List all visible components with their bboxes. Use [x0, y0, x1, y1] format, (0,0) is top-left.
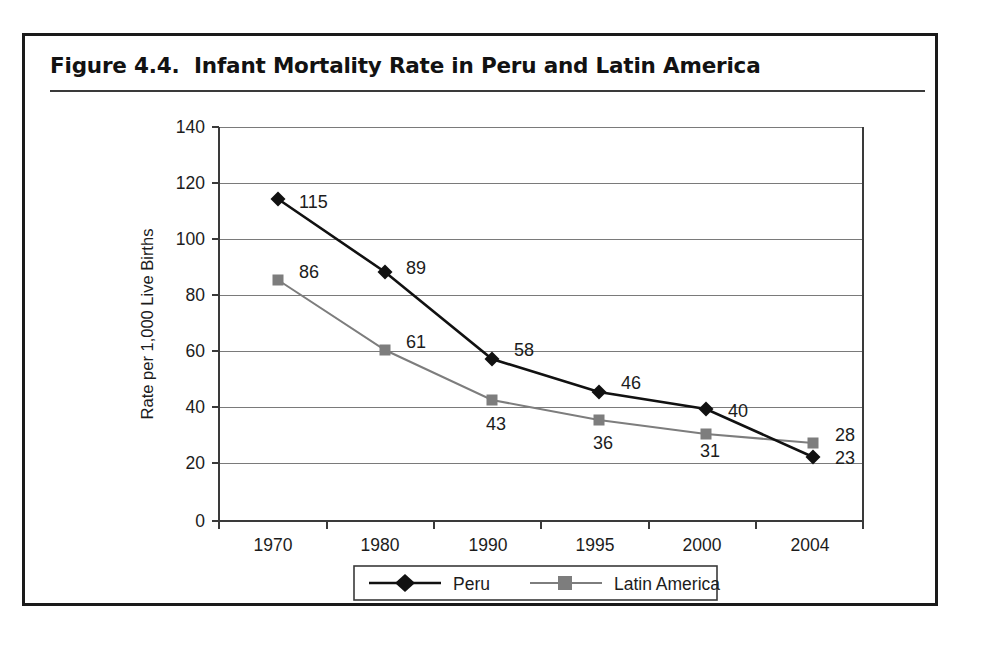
- x-tick-label-2000: 2000: [683, 535, 722, 555]
- datalabel-peru-2000: 40: [728, 401, 748, 421]
- x-tick-marks: [219, 521, 863, 529]
- line-chart-svg: 140 120 100 80 60 40 20 0 1970 1980 1990…: [25, 36, 941, 609]
- y-tick-label-80: 80: [186, 285, 206, 305]
- datalabel-latin-america-2004: 28: [835, 425, 855, 445]
- x-tick-label-1980: 1980: [361, 535, 400, 555]
- axes-group: [219, 127, 863, 521]
- marker-latin-america-1995: [594, 415, 605, 426]
- datalabel-peru-1990: 58: [514, 340, 534, 360]
- datalabel-latin-america-1980: 61: [406, 332, 426, 352]
- y-tick-label-120: 120: [176, 173, 205, 193]
- datalabel-latin-america-1970: 86: [299, 262, 319, 282]
- x-tick-label-1990: 1990: [469, 535, 508, 555]
- datalabel-latin-america-2000: 31: [700, 441, 720, 461]
- datalabel-latin-america-1995: 36: [593, 433, 613, 453]
- datalabel-peru-1980: 89: [406, 258, 426, 278]
- datalabel-peru-1995: 46: [621, 373, 641, 393]
- legend-label-peru: Peru: [453, 574, 490, 594]
- y-axis-title: Rate per 1,000 Live Births: [138, 229, 156, 420]
- figure-frame: Figure 4.4. Infant Mortality Rate in Per…: [22, 33, 938, 606]
- y-tick-marks: [212, 127, 219, 521]
- y-tick-label-100: 100: [176, 229, 205, 249]
- x-tick-label-2004: 2004: [791, 535, 830, 555]
- y-tick-label-0: 0: [195, 511, 205, 531]
- y-tick-label-140: 140: [176, 117, 205, 137]
- y-tick-label-60: 60: [186, 341, 206, 361]
- chart-plot-area: 140 120 100 80 60 40 20 0 1970 1980 1990…: [25, 36, 941, 609]
- x-tick-label-1970: 1970: [254, 535, 293, 555]
- x-tick-label-1995: 1995: [576, 535, 615, 555]
- page-edge-artifact: [836, 636, 986, 645]
- marker-peru-1970: [271, 192, 286, 207]
- marker-latin-america-2000: [701, 429, 712, 440]
- marker-peru-2000: [699, 402, 714, 417]
- gridlines-group: [219, 127, 863, 463]
- y-tick-label-20: 20: [186, 453, 206, 473]
- datalabel-peru-1970: 115: [299, 192, 328, 212]
- marker-latin-america-2004: [808, 438, 819, 449]
- marker-latin-america-1990: [487, 395, 498, 406]
- chart-legend[interactable]: Peru Latin America: [354, 566, 720, 600]
- datalabel-peru-2004: 23: [835, 448, 855, 468]
- marker-latin-america-1980: [380, 345, 391, 356]
- legend-label-latin-america: Latin America: [614, 574, 720, 594]
- marker-latin-america-1970: [273, 275, 284, 286]
- datalabel-latin-america-1990: 43: [486, 414, 506, 434]
- y-tick-label-40: 40: [186, 397, 206, 417]
- marker-peru-2004: [806, 450, 821, 465]
- marker-peru-1995: [592, 385, 607, 400]
- legend-marker-square-icon: [558, 576, 572, 590]
